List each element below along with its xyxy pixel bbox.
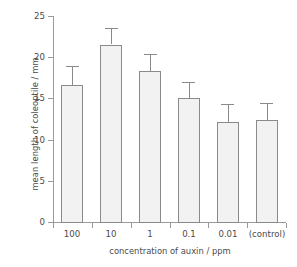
error-bar-cap xyxy=(66,66,79,67)
bar xyxy=(178,98,200,223)
error-bar-stem xyxy=(150,54,151,71)
bar xyxy=(61,85,83,223)
y-axis-tick-label: 10 xyxy=(24,136,45,145)
y-axis-tick-label: 15 xyxy=(24,94,45,103)
y-axis-tick-label: 25 xyxy=(24,12,45,21)
x-axis-tick xyxy=(247,223,248,228)
x-axis-tick xyxy=(53,223,54,228)
y-axis-tick xyxy=(48,98,53,99)
bar xyxy=(100,45,122,223)
error-bar-stem xyxy=(189,82,190,98)
y-axis-tick xyxy=(48,57,53,58)
error-bar-stem xyxy=(72,66,73,85)
error-bar-stem xyxy=(111,28,112,44)
x-axis-title: concentration of auxin / ppm xyxy=(53,246,287,256)
x-axis-tick xyxy=(131,223,132,228)
error-bar-cap xyxy=(144,54,157,55)
bar xyxy=(217,122,239,223)
error-bar-cap xyxy=(221,104,234,105)
bar xyxy=(139,71,161,223)
y-axis-line xyxy=(53,16,54,223)
x-axis-tick xyxy=(92,223,93,228)
y-axis-tick-label: 20 xyxy=(24,53,45,62)
bar-chart: mean length of coleoptile / mm 051015202… xyxy=(0,0,297,267)
x-axis-tick xyxy=(286,223,287,228)
bar xyxy=(256,120,278,223)
error-bar-cap xyxy=(182,82,195,83)
x-axis-tick xyxy=(170,223,171,228)
y-axis-tick xyxy=(48,16,53,17)
error-bar-cap xyxy=(105,28,118,29)
error-bar-stem xyxy=(267,103,268,120)
y-axis-tick-label: 0 xyxy=(24,218,45,227)
x-axis-tick xyxy=(208,223,209,228)
error-bar-cap xyxy=(260,103,273,104)
error-bar-stem xyxy=(228,104,229,122)
y-axis-tick xyxy=(48,181,53,182)
y-axis-tick xyxy=(48,140,53,141)
y-axis-tick-label: 5 xyxy=(24,177,45,186)
x-axis-tick-label: (control) xyxy=(239,230,295,239)
